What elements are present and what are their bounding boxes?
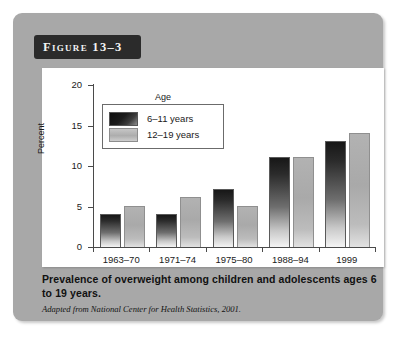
bar-6-11 — [100, 214, 121, 247]
bar-6-11 — [325, 141, 346, 247]
legend-title: Age — [102, 92, 224, 102]
figure-caption-block: Prevalence of overweight among children … — [42, 273, 387, 314]
x-tick-label: 1975–80 — [206, 254, 262, 265]
bar-6-11 — [269, 157, 290, 247]
bar-12-19 — [293, 157, 314, 247]
y-tick-label: 5 — [42, 201, 82, 212]
bar-6-11 — [213, 189, 234, 247]
x-tick — [375, 247, 376, 252]
bar-12-19 — [349, 133, 370, 247]
bar-12-19 — [180, 197, 201, 247]
legend-item-6-11: 6–11 years — [109, 111, 217, 126]
figure-source-note: Adapted from National Center for Health … — [42, 304, 387, 314]
legend-box: 6–11 years 12–19 years — [102, 104, 224, 149]
chart-legend: Age 6–11 years 12–19 years — [102, 92, 224, 149]
bar-6-11 — [156, 214, 177, 247]
figure-banner: Figure 13–3 — [34, 35, 141, 59]
y-tick-label: 0 — [42, 241, 82, 252]
legend-label-6-11: 6–11 years — [147, 113, 193, 124]
x-tick — [262, 247, 263, 252]
x-tick-label: 1999 — [319, 254, 375, 265]
y-tick-label: 15 — [42, 120, 82, 131]
y-tick — [88, 126, 93, 127]
bar-12-19 — [124, 206, 145, 248]
legend-item-12-19: 12–19 years — [109, 127, 217, 142]
y-tick — [88, 207, 93, 208]
figure-caption-text: Prevalence of overweight among children … — [42, 273, 387, 300]
legend-label-12-19: 12–19 years — [147, 129, 199, 140]
legend-swatch-6-11-icon — [109, 112, 138, 126]
x-tick — [206, 247, 207, 252]
x-tick-label: 1988–94 — [262, 254, 318, 265]
y-tick-label: 10 — [42, 160, 82, 171]
x-tick-label: 1971–74 — [149, 254, 205, 265]
legend-swatch-12-19-icon — [109, 128, 138, 142]
y-tick-label: 20 — [42, 79, 82, 90]
bar-chart: Percent 05101520 1963–701971–741975–8019… — [42, 68, 384, 267]
x-tick — [319, 247, 320, 252]
y-axis-line — [93, 84, 94, 248]
figure-panel: Figure 13–3 Percent 05101520 1963–701971… — [13, 13, 383, 321]
bar-12-19 — [237, 206, 258, 248]
x-tick — [93, 247, 94, 252]
y-tick — [88, 166, 93, 167]
chart-plot-panel: Percent 05101520 1963–701971–741975–8019… — [42, 68, 384, 267]
figure-banner-label: Figure 13–3 — [34, 40, 123, 55]
figure-page: Figure 13–3 Percent 05101520 1963–701971… — [0, 0, 396, 341]
x-tick-label: 1963–70 — [93, 254, 149, 265]
y-tick — [88, 85, 93, 86]
x-tick — [149, 247, 150, 252]
x-axis-line — [93, 247, 375, 248]
